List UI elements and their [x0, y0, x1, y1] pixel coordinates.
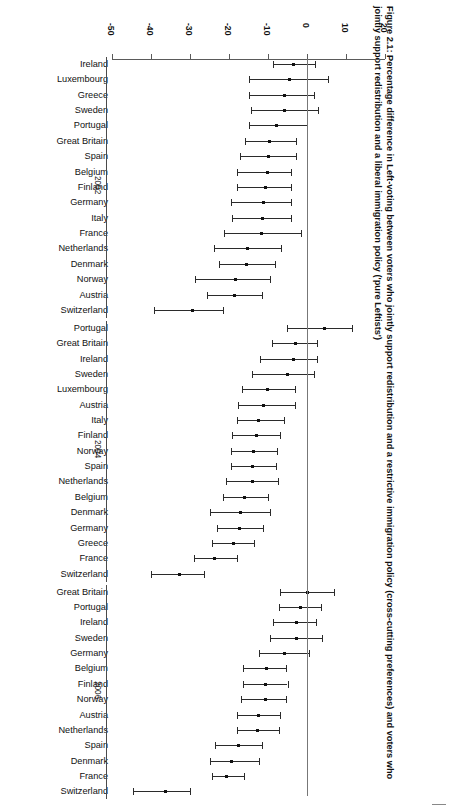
plot-row: Norway: [0, 444, 449, 459]
interval-cap: [318, 107, 319, 114]
country-label: Italy: [0, 211, 108, 226]
point-estimate-marker: [283, 109, 286, 112]
interval-cap: [232, 215, 233, 222]
point-estimate-marker: [262, 404, 265, 407]
interval-cap: [231, 199, 232, 206]
plot-row: Austria: [0, 398, 449, 413]
interval-cap: [270, 635, 271, 642]
point-estimate-marker: [292, 358, 295, 361]
interval-cap: [237, 712, 238, 719]
interval-cap: [243, 681, 244, 688]
country-label: Austria: [0, 708, 108, 723]
page-rule: [432, 804, 446, 805]
plot-row: Netherlands: [0, 723, 449, 738]
interval-cap: [231, 448, 232, 455]
interval-cap: [314, 371, 315, 378]
interval-cap: [249, 76, 250, 83]
interval-cap: [245, 138, 246, 145]
interval-cap: [262, 292, 263, 299]
interval-cap: [237, 184, 238, 191]
point-estimate-marker: [267, 155, 270, 158]
plot-row: Austria: [0, 288, 449, 303]
point-estimate-marker: [283, 652, 286, 655]
country-label: Belgium: [0, 165, 108, 180]
plot-row: Sweden: [0, 631, 449, 646]
interval-cap: [212, 540, 213, 547]
point-estimate-marker: [299, 606, 302, 609]
plot-row: Greece: [0, 88, 449, 103]
interval-cap: [237, 169, 238, 176]
point-estimate-marker: [251, 480, 254, 483]
point-estimate-marker: [295, 621, 298, 624]
point-estimate-marker: [230, 760, 233, 763]
interval-cap: [317, 340, 318, 347]
country-label: Belgium: [0, 490, 108, 505]
point-estimate-marker: [243, 496, 246, 499]
country-label: Denmark: [0, 754, 108, 769]
point-estimate-marker: [265, 667, 268, 670]
country-label: Norway: [0, 692, 108, 707]
interval-cap: [195, 276, 196, 283]
interval-cap: [242, 386, 243, 393]
point-estimate-marker: [283, 94, 286, 97]
interval-cap: [295, 402, 296, 409]
plot-row: France: [0, 551, 449, 566]
interval-cap: [270, 276, 271, 283]
point-estimate-marker: [164, 790, 167, 793]
interval-cap: [237, 727, 238, 734]
country-label: Spain: [0, 738, 108, 753]
plot-row: Great Britain: [0, 585, 449, 600]
confidence-interval-bar: [133, 791, 190, 792]
point-estimate-marker: [246, 247, 249, 250]
interval-cap: [219, 261, 220, 268]
interval-cap: [212, 773, 213, 780]
point-estimate-marker: [264, 683, 267, 686]
interval-cap: [291, 169, 292, 176]
x-axis-tick-label: -30: [184, 23, 194, 35]
plot-row: Belgium: [0, 661, 449, 676]
plot-row: Netherlands: [0, 474, 449, 489]
plot-row: Denmark: [0, 754, 449, 769]
point-estimate-marker: [238, 527, 241, 530]
plot-row: Denmark: [0, 257, 449, 272]
plot-row: Belgium: [0, 165, 449, 180]
country-label: Denmark: [0, 505, 108, 520]
interval-cap: [288, 681, 289, 688]
interval-cap: [315, 61, 316, 68]
interval-cap: [316, 619, 317, 626]
point-estimate-marker: [191, 309, 194, 312]
point-estimate-marker: [294, 342, 297, 345]
point-estimate-marker: [237, 744, 240, 747]
interval-cap: [210, 758, 211, 765]
country-label: Spain: [0, 149, 108, 164]
plot-row: Switzerland: [0, 303, 449, 318]
interval-cap: [314, 92, 315, 99]
x-axis-tick-label: -50: [106, 23, 116, 35]
point-estimate-marker: [178, 573, 181, 576]
interval-cap: [133, 788, 134, 795]
country-label: Germany: [0, 195, 108, 210]
point-estimate-marker: [257, 419, 260, 422]
group-year-label: 2006: [93, 681, 102, 699]
point-estimate-marker: [275, 124, 278, 127]
interval-cap: [151, 571, 152, 578]
interval-cap: [279, 727, 280, 734]
plot-row: Greece: [0, 536, 449, 551]
interval-cap: [275, 261, 276, 268]
plot-row: Spain: [0, 738, 449, 753]
plot-row: Sweden: [0, 103, 449, 118]
point-estimate-marker: [323, 327, 326, 330]
interval-cap: [240, 153, 241, 160]
plot-row: Ireland: [0, 57, 449, 72]
x-axis-tick-label: -20: [223, 23, 233, 35]
confidence-interval-bar: [237, 420, 285, 421]
interval-cap: [226, 478, 227, 485]
country-label: Great Britain: [0, 336, 108, 351]
interval-cap: [231, 463, 232, 470]
interval-cap: [284, 417, 285, 424]
plot-row: Germany: [0, 521, 449, 536]
plot-row: Finland: [0, 180, 449, 195]
point-estimate-marker: [262, 201, 265, 204]
country-label: Austria: [0, 398, 108, 413]
country-label: Germany: [0, 521, 108, 536]
